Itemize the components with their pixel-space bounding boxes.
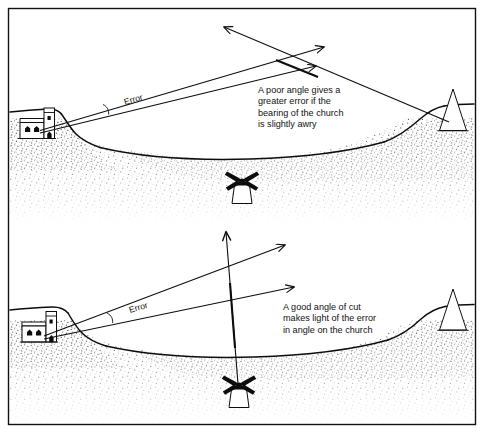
bottom-caption-line-1: A good angle of cut: [283, 302, 361, 312]
angle-of-cut-diagram: Error A poor angle gives a greater error…: [0, 0, 484, 433]
figure-root: Error A poor angle gives a greater error…: [0, 0, 484, 433]
top-caption-line-3: bearing of the church: [258, 108, 343, 118]
bottom-caption-line-2: makes light of the error: [283, 313, 376, 323]
bottom-caption-line-3: in angle on the church: [283, 325, 373, 335]
top-caption-line-4: is slightly awry: [258, 119, 317, 129]
top-caption-line-1: A poor angle gives a: [258, 85, 341, 95]
top-caption-line-2: greater error if the: [258, 96, 331, 106]
